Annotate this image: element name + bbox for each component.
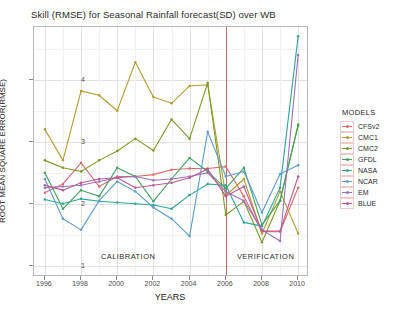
x-tick-mark [152, 276, 153, 280]
data-point [206, 183, 209, 186]
y-tick-mark [29, 141, 33, 142]
data-point [152, 206, 155, 209]
data-point [62, 217, 64, 220]
data-point [206, 172, 209, 175]
series-line-cfsv2 [45, 163, 298, 232]
data-point [44, 172, 47, 175]
data-point [225, 175, 228, 178]
x-tick-label: 2004 [181, 280, 197, 287]
legend-item-cmc2[interactable]: CMC2 [340, 143, 379, 154]
data-point [116, 110, 119, 113]
x-tick-label: 1996 [36, 280, 52, 287]
data-point [62, 185, 64, 188]
data-point [261, 230, 264, 233]
series-lines [34, 27, 307, 275]
x-tick-mark [116, 276, 117, 280]
plot-panel: CALIBRATIONVERIFICATION [33, 26, 308, 276]
legend-key-icon [340, 165, 354, 176]
legend-item-ncar[interactable]: NCAR [340, 176, 379, 187]
data-point [188, 85, 191, 88]
legend-item-nasa[interactable]: NASA [340, 165, 379, 176]
data-point [80, 170, 83, 173]
legend-item-cmc1[interactable]: CMC1 [340, 132, 379, 143]
data-point [188, 167, 191, 170]
data-point [98, 199, 101, 202]
data-point [297, 232, 300, 235]
data-point [297, 175, 300, 178]
legend-key-icon [340, 143, 354, 154]
x-tick-mark [261, 276, 262, 280]
data-point [152, 96, 155, 99]
data-point [134, 186, 137, 189]
legend-key-icon [340, 176, 354, 187]
legend-label: NCAR [358, 178, 378, 185]
data-point [44, 184, 47, 187]
data-point [188, 157, 191, 160]
series-line-em [45, 55, 298, 241]
data-point [116, 167, 119, 170]
x-tick-label: 2008 [253, 280, 269, 287]
series-line-nasa [45, 36, 298, 226]
legend-item-blue[interactable]: BLUE [340, 198, 379, 209]
x-tick-label: 1998 [72, 280, 88, 287]
data-point [297, 124, 300, 127]
data-point [261, 232, 264, 235]
data-point [225, 214, 228, 217]
x-tick-label: 2006 [217, 280, 233, 287]
data-point [206, 131, 209, 134]
data-point [80, 181, 83, 184]
data-point [62, 183, 64, 186]
x-tick-mark [297, 276, 298, 280]
data-point [134, 137, 137, 140]
legend-key-icon [340, 132, 354, 143]
data-point [188, 176, 191, 179]
data-point [80, 229, 83, 232]
data-point [279, 186, 282, 189]
y-tick-mark [29, 79, 33, 80]
x-tick-mark [44, 276, 45, 280]
data-point [243, 199, 246, 202]
data-point [80, 189, 83, 192]
data-point [62, 159, 64, 162]
data-point [243, 221, 246, 224]
data-point [243, 178, 246, 181]
data-point [80, 90, 83, 93]
x-tick-label: 2010 [289, 280, 305, 287]
x-tick-mark [189, 276, 190, 280]
data-point [261, 241, 264, 244]
data-point [134, 190, 137, 193]
data-point [279, 230, 282, 233]
legend-item-em[interactable]: EM [340, 187, 379, 198]
legend-item-cfsv2[interactable]: CFSv2 [340, 121, 379, 132]
data-point [279, 199, 282, 202]
data-point [116, 176, 119, 179]
y-axis-label: ROOT MEAN SQUARE ERROR(RMSE) [0, 79, 7, 223]
legend-label: GFDL [358, 156, 377, 163]
data-point [152, 200, 155, 203]
data-point [62, 167, 64, 170]
data-point [80, 162, 83, 165]
data-point [170, 168, 173, 171]
legend-key-icon [340, 121, 354, 132]
y-tick-label: 2 [65, 199, 85, 206]
legend-item-gfdl[interactable]: GFDL [340, 154, 379, 165]
legend-key-icon [340, 154, 354, 165]
data-point [134, 61, 137, 64]
data-point [98, 185, 101, 188]
chart-title: Skill (RMSE) for Seasonal Rainfall forec… [31, 9, 276, 20]
data-point [44, 186, 47, 189]
data-point [98, 178, 101, 181]
data-point [170, 118, 173, 121]
data-point [152, 204, 155, 207]
legend-key-icon [340, 198, 354, 209]
data-point [44, 198, 47, 201]
chart-root: Skill (RMSE) for Seasonal Rainfall forec… [0, 0, 397, 330]
data-point [279, 173, 282, 176]
data-point [98, 94, 101, 97]
data-point [152, 149, 155, 152]
data-point [188, 137, 191, 140]
x-tick-mark [225, 276, 226, 280]
data-point [134, 203, 137, 206]
data-point [225, 195, 228, 198]
legend-label: CMC2 [358, 145, 378, 152]
